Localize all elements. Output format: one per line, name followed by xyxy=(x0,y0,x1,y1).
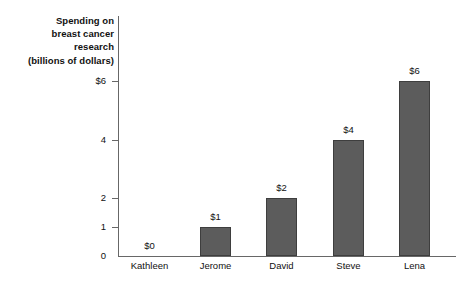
y-tick-label-0: 0 xyxy=(50,251,106,261)
y-axis-line xyxy=(118,16,119,257)
y-axis-title-line-2: breast cancer xyxy=(0,27,114,40)
value-label-lena: $6 xyxy=(399,66,430,76)
value-label-steve: $4 xyxy=(333,125,364,135)
value-label-jerome: $1 xyxy=(200,212,231,222)
y-tick-mark-1 xyxy=(112,227,119,228)
x-category-label-david: David xyxy=(249,260,314,271)
x-axis-line xyxy=(118,256,456,257)
x-category-label-jerome: Jerome xyxy=(183,260,248,271)
y-tick-mark-2 xyxy=(112,198,119,199)
y-tick-label-4: 4 xyxy=(50,135,106,145)
y-axis-title-line-1: Spending on xyxy=(0,14,114,27)
y-axis-title-line-4: (billions of dollars) xyxy=(0,54,114,67)
y-tick-mark-6 xyxy=(112,81,119,82)
bar-jerome xyxy=(200,227,231,256)
bar-lena xyxy=(399,81,430,256)
bar-steve xyxy=(333,140,364,256)
value-label-david: $2 xyxy=(266,183,297,193)
bar-david xyxy=(266,198,297,256)
y-axis-title-line-3: research xyxy=(0,40,114,53)
chart-figure: Spending on breast cancer research (bill… xyxy=(0,0,472,282)
value-label-kathleen: $0 xyxy=(134,241,165,251)
y-tick-mark-4 xyxy=(112,140,119,141)
y-tick-label-6: $6 xyxy=(50,76,106,86)
x-category-label-steve: Steve xyxy=(316,260,381,271)
y-axis-title: Spending on breast cancer research (bill… xyxy=(0,14,114,67)
y-tick-label-2: 2 xyxy=(50,193,106,203)
x-category-label-kathleen: Kathleen xyxy=(117,260,182,271)
x-category-label-lena: Lena xyxy=(382,260,447,271)
y-tick-label-1: 1 xyxy=(50,222,106,232)
